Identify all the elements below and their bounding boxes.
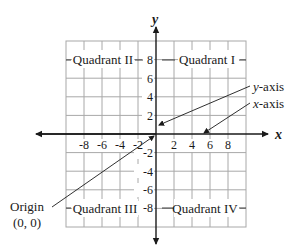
x-tick: 4 [189, 138, 195, 152]
y-tick: -4 [143, 165, 153, 179]
quadrant-1-label: Quadrant I [179, 52, 235, 67]
y-axis-annotation: y-axis [251, 79, 284, 94]
y-tick: 6 [147, 72, 153, 86]
y-tick: -6 [143, 183, 153, 197]
y-tick: 4 [147, 90, 153, 104]
quadrant-2-label: Quadrant II [73, 52, 133, 67]
x-tick: 6 [207, 138, 213, 152]
x-tick: -8 [79, 138, 89, 152]
x-tick: -4 [115, 138, 125, 152]
x-axis-letter: x [274, 127, 282, 142]
quadrant-3-label: Quadrant III [73, 201, 138, 216]
x-axis-pointer [204, 103, 250, 133]
x-tick: 8 [225, 138, 231, 152]
x-tick: -6 [97, 138, 107, 152]
y-tick: 8 [147, 53, 153, 67]
origin-label: Origin [10, 199, 44, 214]
y-tick: -2 [143, 146, 153, 160]
y-tick: 2 [147, 109, 153, 123]
quadrant-4-label: Quadrant IV [172, 201, 238, 216]
y-axis-pointer [159, 86, 250, 125]
x-tick: 2 [171, 138, 177, 152]
origin-coords: (0, 0) [13, 215, 41, 230]
x-tick-labels: -8 -6 -4 -2 2 4 6 8 [79, 138, 231, 152]
x-axis-annotation: x-axis [252, 96, 284, 111]
y-axis-letter: y [150, 12, 159, 27]
coordinate-plane-diagram: y x 8 6 4 2 -2 -4 -6 -8 -8 -6 -4 -2 2 4 … [0, 0, 299, 250]
y-tick: -8 [143, 201, 153, 215]
